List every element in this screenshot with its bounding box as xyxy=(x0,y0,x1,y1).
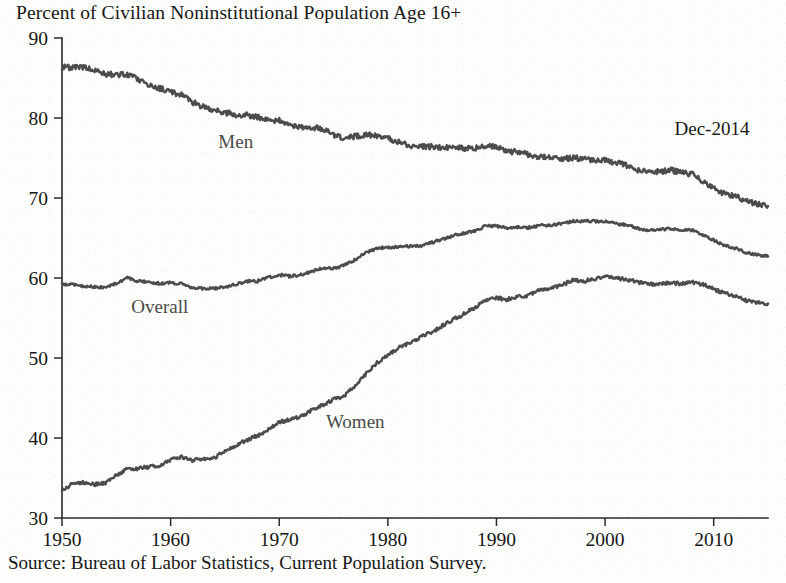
data-line-overall xyxy=(62,220,768,290)
y-axis-ticks: 30405060708090 xyxy=(29,28,63,529)
x-tick-label: 1980 xyxy=(368,529,407,550)
y-tick-label: 70 xyxy=(29,188,49,209)
x-tick-label: 2010 xyxy=(694,529,733,550)
x-tick-label: 2000 xyxy=(586,529,625,550)
x-tick-label: 1990 xyxy=(477,529,516,550)
y-tick-label: 60 xyxy=(29,268,49,289)
date-annotation: Dec-2014 xyxy=(675,118,750,139)
y-tick-label: 50 xyxy=(29,348,49,369)
series-label-women: Women xyxy=(326,411,385,432)
x-tick-label: 1960 xyxy=(151,529,190,550)
x-axis-ticks: 1950196019701980199020002010 xyxy=(43,518,734,550)
x-tick-label: 1950 xyxy=(43,529,82,550)
data-series-group xyxy=(62,65,768,491)
series-label-overall: Overall xyxy=(131,296,188,317)
chart-plot-area: 3040506070809019501960197019801990200020… xyxy=(0,0,786,583)
y-tick-label: 40 xyxy=(29,428,49,449)
y-tick-label: 80 xyxy=(29,108,49,129)
series-label-men: Men xyxy=(218,131,253,152)
axis-lines xyxy=(62,38,768,518)
x-tick-label: 1970 xyxy=(260,529,299,550)
axes xyxy=(62,38,768,518)
data-line-men xyxy=(62,65,768,208)
y-tick-label: 90 xyxy=(29,28,49,49)
figure-container: Percent of Civilian Noninstitutional Pop… xyxy=(0,0,786,583)
source-note: Source: Bureau of Labor Statistics, Curr… xyxy=(8,552,486,574)
y-tick-label: 30 xyxy=(29,508,49,529)
